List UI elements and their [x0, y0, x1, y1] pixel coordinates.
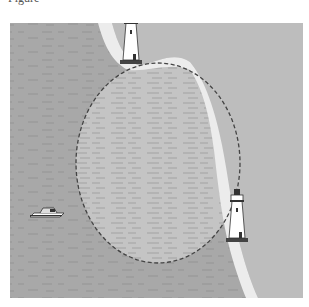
lighthouse-diagram: [0, 0, 309, 307]
map-area: [10, 11, 303, 298]
